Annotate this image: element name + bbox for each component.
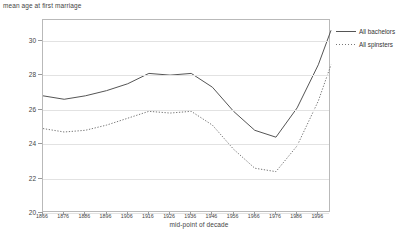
y-tick-mark (38, 74, 42, 75)
x-tick-mark (106, 212, 107, 215)
plot-area (42, 19, 330, 212)
x-tick-mark (317, 212, 318, 215)
y-tick-mark (38, 40, 42, 41)
dotted-line-icon (336, 41, 356, 48)
series-line (43, 65, 331, 172)
series-line (43, 30, 331, 137)
y-tick-label: 28 (0, 71, 36, 78)
y-tick-label: 26 (0, 105, 36, 112)
y-tick-mark (38, 178, 42, 179)
y-axis-title: mean age at first marriage (3, 2, 81, 9)
x-tick-mark (190, 212, 191, 215)
gridline (43, 144, 329, 145)
x-tick-mark (275, 212, 276, 215)
chart-legend: All bachelors All spinsters (336, 27, 396, 53)
gridline (43, 41, 329, 42)
chart-canvas (43, 20, 331, 213)
legend-label: All spinsters (359, 41, 393, 48)
gridline (43, 75, 329, 76)
y-tick-mark (38, 143, 42, 144)
y-tick-label: 24 (0, 140, 36, 147)
x-tick-mark (127, 212, 128, 215)
gridline (43, 110, 329, 111)
x-tick-mark (84, 212, 85, 215)
y-tick-label: 22 (0, 174, 36, 181)
x-tick-mark (233, 212, 234, 215)
y-tick-label: 20 (0, 209, 36, 216)
x-axis-title: mid-point of decade (0, 221, 398, 228)
y-tick-label: 30 (0, 36, 36, 43)
solid-line-icon (336, 28, 356, 35)
x-tick-mark (296, 212, 297, 215)
x-tick-mark (42, 212, 43, 215)
legend-label: All bachelors (359, 28, 395, 35)
y-tick-mark (38, 109, 42, 110)
x-tick-mark (254, 212, 255, 215)
x-tick-mark (148, 212, 149, 215)
x-tick-mark (211, 212, 212, 215)
x-tick-mark (63, 212, 64, 215)
gridline (43, 179, 329, 180)
legend-item-spinsters[interactable]: All spinsters (336, 40, 396, 48)
x-tick-mark (169, 212, 170, 215)
legend-item-bachelors[interactable]: All bachelors (336, 27, 396, 35)
